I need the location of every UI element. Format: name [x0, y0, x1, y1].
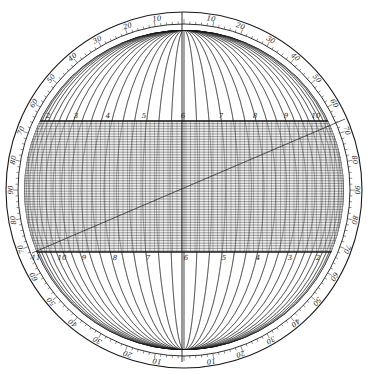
- rim-label: 70: [341, 125, 352, 137]
- lower-band-label: 2: [315, 254, 321, 262]
- rim-label: 10: [206, 14, 217, 23]
- rim-label: 50: [45, 72, 57, 84]
- rim-label: 70: [341, 244, 352, 256]
- upper-band-label: 4: [105, 112, 110, 120]
- rim-label: 40: [66, 316, 79, 329]
- rim-label: 80: [350, 215, 360, 226]
- rim-label: 40: [289, 316, 302, 329]
- upper-band-label: 7: [219, 112, 224, 120]
- rim-label: 30: [91, 334, 103, 346]
- upper-band-label: 2: [45, 112, 51, 120]
- rim-label: 60: [328, 271, 340, 283]
- upper-band-label: 9: [284, 112, 289, 120]
- rim-label: 10: [151, 356, 162, 365]
- rim-label: 60: [28, 97, 40, 109]
- rim-label: 80: [350, 155, 360, 166]
- rim-label: 50: [311, 73, 323, 85]
- upper-band-label: 8: [253, 112, 258, 120]
- rim-label: 70: [16, 125, 27, 137]
- rim-label: 40: [66, 51, 79, 64]
- rim-label: 80: [9, 214, 19, 225]
- rim-label: 70: [16, 243, 27, 255]
- dense-latitude-band: [24, 121, 344, 252]
- rim-label: 50: [310, 295, 322, 307]
- lower-band-label: 8: [113, 254, 118, 262]
- upper-band-label: 5: [142, 112, 147, 120]
- rim-label: 60: [328, 98, 340, 110]
- rim-label: 40: [289, 51, 302, 64]
- rim-label: 30: [265, 34, 277, 46]
- lower-band-label: 10: [58, 254, 67, 262]
- rim-label: 90: [7, 185, 15, 194]
- projection-net-diagram: 1020304050607080908070605040302010102030…: [0, 0, 367, 380]
- rim-label: 10: [152, 14, 163, 23]
- lower-band-label: 4: [255, 254, 260, 262]
- upper-band-label: 6: [181, 112, 186, 120]
- rim-label: 30: [92, 34, 104, 46]
- rim-label: 80: [9, 154, 19, 165]
- rim-label: 10: [206, 356, 217, 365]
- rim-label: 30: [264, 334, 276, 346]
- lower-band-label: 5: [222, 254, 227, 262]
- rim-label: 90: [353, 186, 361, 195]
- lower-band-label: 9: [82, 254, 87, 262]
- lower-band-label: 6: [184, 254, 189, 262]
- rim-label: 50: [45, 295, 57, 307]
- rim-label: 60: [28, 270, 40, 282]
- lower-band-label: 3: [288, 254, 293, 262]
- lower-band-label: 7: [146, 254, 151, 262]
- lower-band-label: 11: [32, 254, 41, 262]
- upper-band-label: 3: [74, 112, 79, 120]
- upper-band-label: 10: [312, 112, 321, 120]
